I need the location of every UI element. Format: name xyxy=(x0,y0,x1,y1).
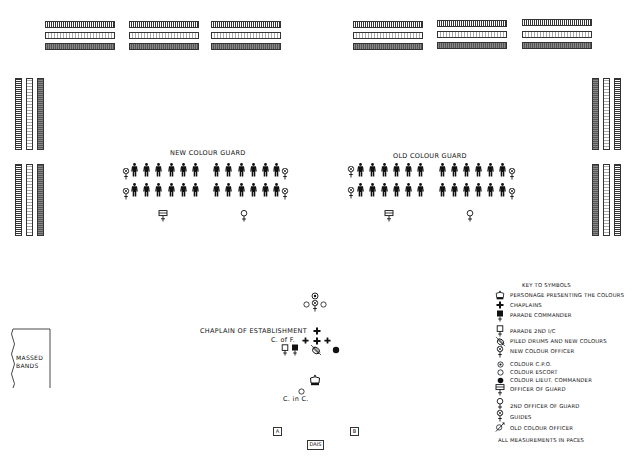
c-in-c-label: C. in C. xyxy=(283,395,309,403)
stand xyxy=(26,164,33,236)
soldier-icon xyxy=(250,183,257,197)
guide-icon xyxy=(281,168,289,180)
officer-of-guard-icon xyxy=(495,384,505,396)
soldier-icon xyxy=(487,183,494,197)
stand xyxy=(592,78,599,150)
filled-square-pin-icon xyxy=(291,344,299,356)
guide-icon xyxy=(347,166,355,178)
key-title: KEY TO SYMBOLS xyxy=(522,282,571,288)
soldier-icon xyxy=(192,163,199,177)
guide-icon xyxy=(508,168,516,180)
soldier-icon xyxy=(417,163,424,177)
soldier-icon xyxy=(225,163,232,177)
female-sign-icon xyxy=(496,398,504,410)
crown-icon xyxy=(495,290,505,300)
soldier-icon xyxy=(273,183,280,197)
soldier-icon xyxy=(250,163,257,177)
stand xyxy=(437,42,507,49)
filled-square-pin-icon xyxy=(496,310,504,322)
key-label: OFFICER OF GUARD xyxy=(510,386,566,392)
soldier-icon xyxy=(180,163,187,177)
crown-icon xyxy=(309,374,321,386)
stand xyxy=(603,78,610,150)
soldier-icon xyxy=(439,183,446,197)
open-circle-icon xyxy=(298,388,305,395)
soldier-icon xyxy=(131,163,138,177)
stand xyxy=(129,32,199,39)
stand xyxy=(592,164,599,236)
marker-b: B xyxy=(350,427,359,436)
key-label: COLOUR C.P.O. xyxy=(510,361,552,367)
open-circle-icon xyxy=(320,301,327,308)
key-label: PARADE COMMANDER xyxy=(510,312,572,318)
stand xyxy=(437,31,507,38)
soldier-icon xyxy=(357,183,364,197)
soldier-icon xyxy=(168,183,175,197)
stand xyxy=(353,32,423,39)
stand xyxy=(15,164,22,236)
female-sign-icon xyxy=(240,210,248,222)
stand xyxy=(522,19,592,26)
soldier-icon xyxy=(451,183,458,197)
chaplain-of-establishment-label: CHAPLAIN OF ESTABLISHMENT xyxy=(200,327,307,335)
guide-icon xyxy=(122,188,130,200)
key-label: COLOUR ESCORT xyxy=(510,369,558,375)
massed-bands-label: MASSED BANDS xyxy=(16,354,43,370)
soldier-icon xyxy=(143,163,150,177)
stand xyxy=(522,31,592,38)
soldier-icon xyxy=(131,183,138,197)
soldier-icon xyxy=(463,163,470,177)
soldier-icon xyxy=(451,163,458,177)
key-label: COLOUR LIEUT. COMMANDER xyxy=(510,377,592,383)
soldier-icon xyxy=(405,183,412,197)
dotted-circle-icon xyxy=(497,361,504,368)
old-colour-officer-icon xyxy=(495,422,505,432)
key-label: OLD COLOUR OFFICER xyxy=(510,425,573,431)
guide-icon xyxy=(347,187,355,199)
guide-icon xyxy=(122,168,130,180)
soldier-icon xyxy=(475,183,482,197)
filled-circle-icon xyxy=(497,377,504,384)
stand xyxy=(45,32,115,39)
open-circle-icon xyxy=(303,301,310,308)
filled-circle-icon xyxy=(332,346,340,354)
soldier-icon xyxy=(238,183,245,197)
stand xyxy=(37,78,44,150)
new-colour-officer-icon xyxy=(496,346,504,358)
soldier-icon xyxy=(499,163,506,177)
massed-bands: MASSED BANDS xyxy=(10,328,52,388)
soldier-icon xyxy=(475,163,482,177)
soldier-icon xyxy=(213,163,220,177)
new-colour-guard-label: NEW COLOUR GUARD xyxy=(170,149,246,157)
stand xyxy=(26,78,33,150)
stand xyxy=(211,21,281,28)
soldier-icon xyxy=(393,183,400,197)
soldier-icon xyxy=(499,183,506,197)
key-label: PARADE 2ND I/C xyxy=(510,328,556,334)
stand xyxy=(353,43,423,50)
soldier-icon xyxy=(168,163,175,177)
stand xyxy=(603,164,610,236)
stand xyxy=(614,78,621,150)
soldier-icon xyxy=(238,163,245,177)
stand xyxy=(129,21,199,28)
cross-icon xyxy=(324,337,331,344)
guide-icon xyxy=(281,188,289,200)
soldier-icon xyxy=(381,183,388,197)
soldier-icon xyxy=(357,163,364,177)
key-label: GUIDES xyxy=(510,414,532,420)
key-label: PERSONAGE PRESENTING THE COLOURS xyxy=(510,292,624,298)
soldier-icon xyxy=(487,163,494,177)
guides-icon xyxy=(496,410,504,422)
soldier-icon xyxy=(417,183,424,197)
soldier-icon xyxy=(143,183,150,197)
open-square-pin-icon xyxy=(281,344,289,356)
guide-icon xyxy=(508,188,516,200)
open-circle-icon xyxy=(497,369,504,376)
soldier-icon xyxy=(192,183,199,197)
old-colour-guard-label: OLD COLOUR GUARD xyxy=(393,152,467,160)
guide-icon xyxy=(311,300,319,312)
stand xyxy=(129,43,199,50)
soldier-icon xyxy=(273,163,280,177)
soldier-icon xyxy=(155,183,162,197)
